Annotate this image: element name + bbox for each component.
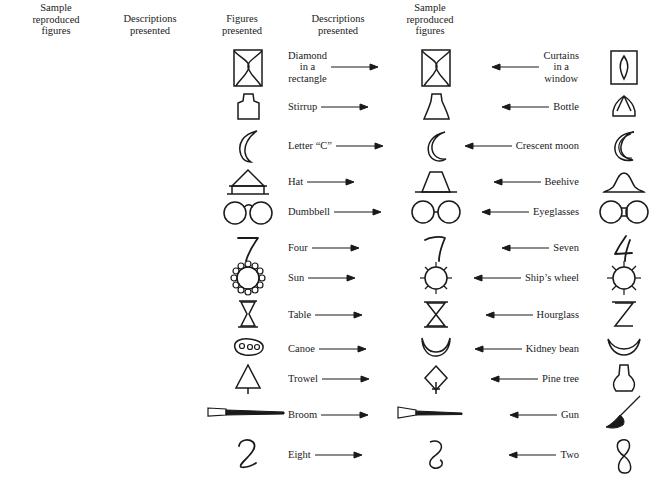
table-row: Hourglass Table (0, 298, 479, 332)
table-row: Curtains in a window Diamond in a rectan… (0, 48, 479, 86)
description-label-right: Diamond in a rectangle (288, 50, 330, 85)
figure-dumbbell (384, 196, 653, 226)
figure-stirrup (384, 92, 653, 122)
figure-hat (384, 166, 653, 198)
arrow-right-icon (330, 62, 378, 72)
description-label-right: Eight (288, 449, 314, 461)
table-row: Gun Broom (0, 402, 479, 428)
table-row: Beehive Hat (0, 166, 479, 198)
arrow-right-icon (311, 243, 359, 253)
arrow-right-icon (307, 273, 355, 283)
arrow-right-icon (314, 450, 362, 460)
figure-letter-c (384, 128, 653, 164)
table-row: Ship’s wheel Sun (0, 260, 479, 296)
arrow-right-icon (320, 410, 368, 420)
arrow-right-icon (335, 141, 383, 151)
arrow-right-icon (314, 310, 362, 320)
table-row: Crescent moon Letter “C” (0, 128, 479, 164)
figure-broom (384, 402, 653, 434)
description-label-right: Trowel (288, 373, 321, 385)
figure-sun (384, 260, 653, 296)
arrow-right-icon (318, 344, 366, 354)
arrow-right-icon (306, 177, 354, 187)
description-label-right: Sun (288, 272, 307, 284)
table-row: Eyeglasses Dumbbell (0, 196, 479, 228)
figure-eight (384, 436, 653, 476)
figure-table (384, 298, 653, 332)
arrow-right-icon (321, 374, 369, 384)
description-label-right: Canoe (288, 343, 318, 355)
description-label-right: Stirrup (288, 101, 320, 113)
arrow-right-icon (320, 102, 368, 112)
description-label-right: Hat (288, 176, 306, 188)
figure-diamond-in-rectangle (384, 48, 653, 88)
description-label-right: Broom (288, 409, 320, 421)
description-label-right: Letter “C” (288, 140, 335, 152)
table-row: Two Eight (0, 436, 479, 474)
arrow-right-icon (333, 207, 381, 217)
figure-trowel (384, 362, 653, 396)
figure-canoe (384, 334, 653, 360)
description-label-right: Four (288, 242, 311, 254)
table-row: Bottle Stirrup (0, 92, 479, 122)
description-label-right: Table (288, 309, 314, 321)
table-row: Pine tree Trowel (0, 362, 479, 396)
table-row: Kidney bean Canoe (0, 334, 479, 364)
description-label-right: Dumbbell (288, 206, 333, 218)
